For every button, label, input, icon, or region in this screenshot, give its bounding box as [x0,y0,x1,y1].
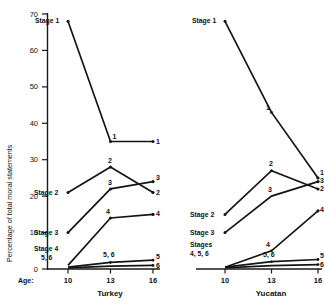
yucatan-point-label-s56-13: 5, 6 [263,251,275,259]
yucatan-point-label-s2-13: 2 [269,160,273,167]
turkey-point-label-s2-13: 2 [108,157,112,164]
turkey-point-label-s56-13: 5, 6 [103,251,115,259]
turkey-marker-s5-16 [152,259,155,262]
yucatan-series-stage-4 [225,211,318,267]
yucatan-label-stages: Stages [190,241,213,249]
y-tick-label-0: 0 [34,265,38,274]
yucatan-end-label-s2: 2 [320,185,324,192]
yucatan-end-label-s3: 3 [320,177,324,184]
turkey-end-label-s4: 4 [156,210,160,217]
turkey-end-label-s2: 2 [156,189,160,196]
y-tick-label-30: 30 [30,155,38,164]
turkey-end-label-s3: 3 [156,174,160,181]
y-tick-label-60: 60 [30,46,38,55]
turkey-marker-s3-13 [109,187,112,190]
turkey-marker-s4-13 [109,217,112,220]
turkey-x-label-10: 10 [64,276,72,285]
panel-label-turkey: Turkey [97,289,123,298]
turkey-marker-s5-13 [109,261,112,264]
yucatan-label-stage-3: Stage 3 [190,229,214,237]
age-prefix-label: Age: [18,277,34,285]
yucatan-marker-s5-13 [270,260,273,263]
yucatan-end-label-s6: 6 [320,261,324,268]
yucatan-marker-s6-16 [317,263,320,266]
y-tick-label-40: 40 [30,119,38,128]
panel-turkey: Age: 10 13 16 Turkey Stage 1 1 1 Stage 2… [18,17,160,298]
yucatan-end-label-s5: 5 [320,252,324,259]
yucatan-x-label-10: 10 [221,276,229,285]
chart-figure: 70 60 50 40 30 20 10 0 Percentage of tot… [0,0,324,306]
turkey-marker-s4-16 [151,213,154,216]
yucatan-label-stage-1: Stage 1 [192,17,216,25]
turkey-label-stage-4: Stage 4 [34,245,58,253]
turkey-point-label-s3-13: 3 [108,179,112,186]
turkey-marker-s2-16 [151,191,154,194]
yucatan-marker-s1-10 [224,20,227,23]
turkey-point-label-s4-13: 4 [106,208,110,215]
turkey-marker-s1-10 [67,20,70,23]
yucatan-marker-s2-13 [270,169,273,172]
turkey-end-label-s6: 6 [156,262,160,269]
y-axis-title: Percentage of total moral statements [5,144,14,262]
yucatan-point-label-s1-13: 1 [266,104,270,111]
yucatan-point-label-s4-13: 4 [266,241,270,248]
panel-yucatan: 10 13 16 Yucatan Stage 1 1 1 Stage 2 2 2 [190,17,324,298]
yucatan-end-label-s4: 4 [320,206,324,213]
turkey-series-stage-4 [68,214,153,265]
chart-svg: 70 60 50 40 30 20 10 0 Percentage of tot… [0,0,324,306]
yucatan-marker-s3-10 [224,231,227,234]
turkey-series-stage-1 [68,21,153,141]
y-tick-label-50: 50 [30,82,38,91]
turkey-end-label-s5: 5 [156,253,160,260]
turkey-marker-s6-16 [152,264,155,267]
turkey-marker-s2-13 [109,166,112,169]
yucatan-marker-s1-13 [270,111,273,114]
turkey-marker-s3-16 [151,180,154,183]
yucatan-end-label-s1: 1 [320,169,324,176]
yucatan-marker-s5-16 [317,258,320,261]
turkey-marker-s3-10 [67,231,70,234]
turkey-marker-s1-16 [151,140,154,143]
panel-label-yucatan: Yucatan [256,289,287,298]
turkey-label-stage-56: 5, 6 [41,254,53,262]
yucatan-x-label-16: 16 [314,276,322,285]
yucatan-marker-s2-10 [224,213,227,216]
turkey-label-stage-3: Stage 3 [34,229,58,237]
turkey-end-label-s1: 1 [156,138,160,145]
yucatan-label-stage-2: Stage 2 [190,211,214,219]
turkey-label-stage-1: Stage 1 [35,17,59,25]
turkey-marker-s1-13 [109,140,112,143]
turkey-label-stage-2: Stage 2 [34,189,58,197]
yucatan-point-label-s3-13: 3 [268,186,272,193]
turkey-marker-s2-10 [67,191,70,194]
turkey-x-label-16: 16 [149,276,157,285]
yucatan-series-stage-1 [225,21,318,178]
turkey-point-label-s1-13: 1 [113,133,117,140]
turkey-x-label-13: 13 [106,276,114,285]
yucatan-x-label-13: 13 [267,276,275,285]
yucatan-label-stages-456: 4, 5, 6 [190,250,209,258]
